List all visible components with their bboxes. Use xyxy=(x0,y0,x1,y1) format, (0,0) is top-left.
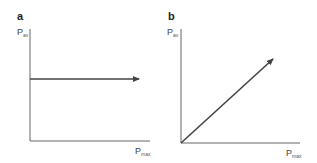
panel-b-x-axis-label: P max xyxy=(286,148,302,159)
y-axis-label-subscript: av xyxy=(173,32,179,38)
y-axis-label-subscript: av xyxy=(23,32,29,38)
x-axis-label-subscript: max xyxy=(141,151,151,157)
panel-b: b P av P max xyxy=(167,10,302,159)
panel-b-y-axis-label: P av xyxy=(167,27,179,38)
x-axis-label-subscript: max xyxy=(292,153,302,159)
panel-a-y-axis-label: P av xyxy=(17,27,29,38)
panel-b-label: b xyxy=(168,10,175,22)
panel-a-x-axis-label: P max xyxy=(135,146,151,157)
diagram-canvas: a P av P max b P av P max xyxy=(0,0,317,163)
panel-a-label: a xyxy=(17,10,24,22)
panel-a: a P av P max xyxy=(17,10,151,157)
panel-b-proportional-arrow xyxy=(181,59,273,143)
